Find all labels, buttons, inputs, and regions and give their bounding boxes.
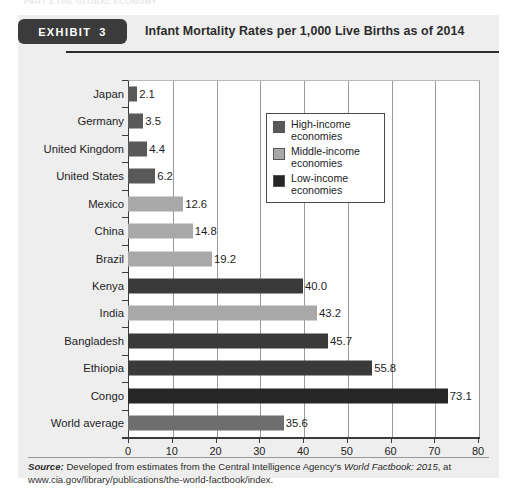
exhibit-panel: EXHIBIT 3 Infant Mortality Rates per 1,0… [18,15,499,478]
category-label: Japan [93,88,124,100]
exhibit-tag: EXHIBIT 3 [18,19,127,44]
y-tick [122,162,128,163]
x-tick-label: 30 [253,445,265,457]
x-tick-label: 40 [297,445,309,457]
legend-label-low-income: Low-income economies [291,173,348,196]
category-label: Congo [91,390,124,402]
legend-item: Low-income economies [273,173,378,196]
category-label: United Kingdom [44,143,124,155]
bar [128,141,147,156]
x-tick [216,437,217,443]
legend-swatch-middle-income [273,148,285,160]
gridline [260,81,261,438]
x-tick-label: 50 [341,445,353,457]
category-label: Mexico [88,198,124,210]
bar-value-label: 3.5 [143,115,161,127]
bar [128,251,212,266]
y-tick [122,190,128,191]
x-tick [434,437,435,443]
source-text-1: Developed from estimates from the Centra… [64,461,344,472]
x-tick-label: 60 [384,445,396,457]
bar [128,86,137,101]
gridline [392,81,393,438]
x-tick [391,437,392,443]
category-label: Brazil [96,253,124,265]
bar-value-label: 73.1 [448,390,472,402]
exhibit-header: EXHIBIT 3 Infant Mortality Rates per 1,0… [18,15,499,49]
x-axis-line [122,437,480,439]
bar [128,333,328,348]
source-label: Source: [28,461,64,472]
x-tick-label: 80 [472,445,484,457]
category-label: India [100,307,125,319]
y-tick [122,327,128,328]
exhibit-tag-word: EXHIBIT [38,26,91,38]
bar-value-label: 40.0 [303,280,327,292]
bar [128,306,317,321]
bar-value-label: 2.1 [137,88,155,100]
x-tick [172,437,173,443]
y-tick [122,245,128,246]
bar-value-label: 19.2 [212,253,236,265]
bar-value-label: 43.2 [317,307,341,319]
exhibit-tag-number: 3 [99,26,107,38]
y-tick [122,107,128,108]
bar [128,361,372,376]
x-tick [259,437,260,443]
bar-value-label: 14.8 [193,225,217,237]
source-italic-title: World Factbook: 2015 [344,461,438,472]
bar [128,416,284,431]
bar-value-label: 45.7 [328,335,352,347]
y-tick [122,272,128,273]
x-tick [128,437,129,443]
x-tick [303,437,304,443]
category-label: Bangladesh [64,335,124,347]
x-tick [478,437,479,443]
y-tick [122,80,128,81]
source-note: Source: Developed from estimates from th… [28,461,493,486]
y-tick [122,410,128,411]
bar-value-label: 12.6 [183,198,207,210]
bar [128,278,303,293]
gridline [435,81,436,438]
y-tick [122,382,128,383]
bar-value-label: 4.4 [147,143,165,155]
legend-label-middle-income: Middle-income economies [291,146,360,169]
x-tick [347,437,348,443]
chart-legend: High-income economies Middle-income econ… [266,113,385,203]
bar-value-label: 55.8 [372,362,396,374]
bar [128,196,183,211]
y-tick [122,300,128,301]
category-label: Ethiopia [83,362,124,374]
y-tick [122,355,128,356]
bar-value-label: 35.6 [284,417,308,429]
category-label: Germany [78,115,124,127]
legend-item: High-income economies [273,119,378,142]
exhibit-page: PART 1 THE GLOBAL ECONOMY EXHIBIT 3 Infa… [0,0,515,493]
header-divider [66,51,499,53]
gridline [479,81,480,438]
running-head: PART 1 THE GLOBAL ECONOMY [24,0,157,6]
bar [128,388,448,403]
bar [128,114,143,129]
y-tick [122,135,128,136]
x-tick-label: 70 [428,445,440,457]
category-label: Kenya [92,280,124,292]
bar-chart: 01020304050607080 Japan2.1Germany3.5Unit… [18,55,499,452]
category-label: World average [51,417,124,429]
x-tick-label: 20 [209,445,221,457]
x-tick-label: 0 [125,445,131,457]
bar-value-label: 6.2 [155,170,173,182]
y-tick [122,217,128,218]
legend-item: Middle-income economies [273,146,378,169]
legend-swatch-low-income [273,175,285,187]
exhibit-title: Infant Mortality Rates per 1,000 Live Bi… [145,24,465,38]
bar [128,224,193,239]
bar [128,169,155,184]
legend-label-high-income: High-income economies [291,119,350,142]
x-tick-label: 10 [166,445,178,457]
legend-swatch-high-income [273,121,285,133]
category-label: China [94,225,124,237]
category-label: United States [56,170,124,182]
source-divider [28,457,489,458]
